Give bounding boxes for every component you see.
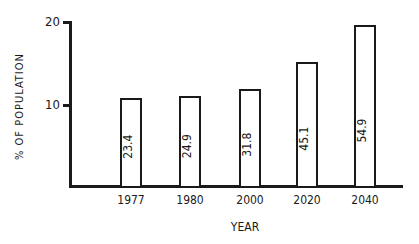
bar-value-label: 23.4 [121, 135, 135, 159]
bar-2040: 54.9 [354, 25, 376, 186]
y-tick-10 [63, 104, 71, 107]
x-tick-label-2020: 2020 [287, 193, 327, 207]
y-axis-label: % OF POPULATION [13, 52, 26, 162]
y-tick-label-10: 10 [30, 97, 60, 112]
x-axis-label: YEAR [215, 220, 275, 234]
bar-value-label: 24.9 [180, 134, 194, 158]
x-tick-label-1977: 1977 [111, 193, 151, 207]
bar-value-label: 31.8 [240, 133, 254, 157]
bar-value-label: 45.1 [297, 127, 311, 151]
bar-1980: 24.9 [179, 96, 201, 186]
bar-2000: 31.8 [239, 89, 261, 186]
y-tick-20 [63, 21, 71, 24]
x-tick-label-2000: 2000 [230, 193, 270, 207]
x-tick-label-1980: 1980 [170, 193, 210, 207]
x-tick-label-2040: 2040 [345, 193, 385, 207]
y-tick-label-20: 20 [30, 14, 60, 29]
bar-1977: 23.4 [120, 98, 142, 186]
bar-value-label: 54.9 [355, 119, 369, 143]
bar-2020: 45.1 [296, 62, 318, 186]
